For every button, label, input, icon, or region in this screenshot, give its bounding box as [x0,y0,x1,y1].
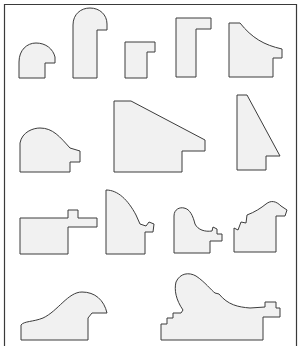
profile-9 [20,210,97,254]
profile-7 [114,101,205,172]
profile-2 [73,8,107,78]
profile-1 [19,43,55,78]
profile-3 [125,42,155,78]
profile-14 [161,274,280,340]
profile-6 [20,128,80,172]
profile-8 [237,95,280,170]
profile-4 [176,18,211,77]
profile-12 [234,202,287,252]
profile-11 [174,208,222,253]
profile-13 [21,292,107,340]
moulding-profiles-diagram [0,0,301,346]
profile-10 [106,190,154,254]
profile-5 [229,23,282,77]
